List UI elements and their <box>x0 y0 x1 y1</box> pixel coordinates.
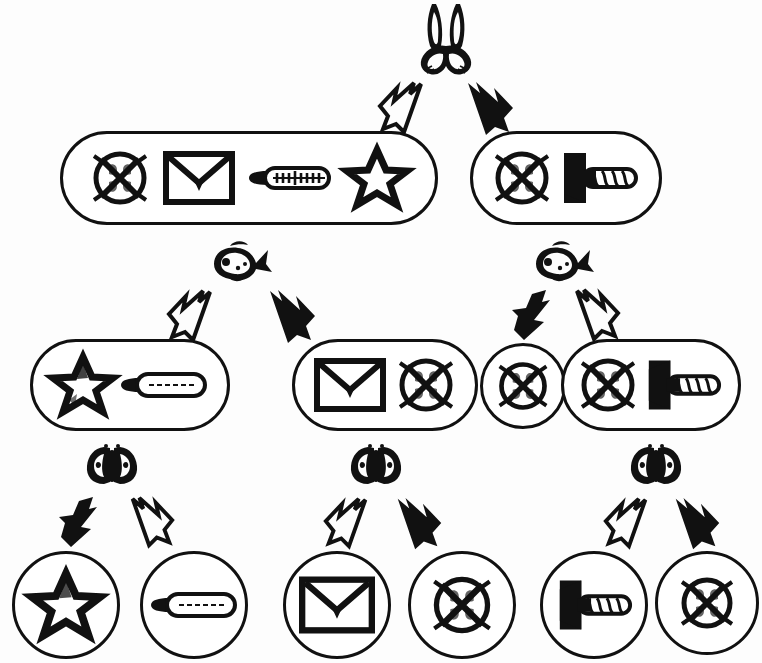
circle-with-x-icon <box>491 147 553 209</box>
star-icon <box>30 570 102 640</box>
node-l2-left[interactable] <box>60 131 438 225</box>
leaf-6[interactable] <box>655 551 759 655</box>
fish-icon <box>530 240 596 288</box>
black-filled-arrow-icon <box>512 288 558 344</box>
black-filled-arrow-icon <box>668 495 726 553</box>
left-arrow-tool-icon <box>556 150 642 206</box>
envelope-icon <box>314 358 386 412</box>
circle-with-x-icon <box>395 354 457 416</box>
butterfly-icon <box>348 444 404 486</box>
envelope-icon <box>163 151 235 205</box>
circle-with-x-icon <box>429 572 495 638</box>
black-filled-arrow-icon <box>460 80 520 138</box>
node-l3-b[interactable] <box>292 339 478 431</box>
black-filled-arrow-icon <box>58 495 106 551</box>
circle-with-x-icon <box>676 572 738 634</box>
circle-with-x-icon <box>577 354 639 416</box>
white-outline-arrow-icon <box>600 495 656 553</box>
star-icon <box>51 354 115 416</box>
butterfly-icon <box>628 444 684 486</box>
white-outline-arrow-icon <box>374 80 432 136</box>
white-outline-arrow-icon <box>320 495 376 553</box>
black-filled-arrow-icon <box>262 288 322 346</box>
leaf-3[interactable] <box>283 551 391 659</box>
fish-icon <box>208 240 274 288</box>
node-l2-right[interactable] <box>470 131 662 225</box>
white-outline-arrow-icon <box>122 495 178 553</box>
diagram-canvas <box>0 0 762 663</box>
node-l3-d[interactable] <box>561 339 741 431</box>
leaf-4[interactable] <box>408 551 516 659</box>
thermometer-icon <box>247 161 333 195</box>
rabbit-head-icon <box>410 2 482 80</box>
node-l3-c[interactable] <box>480 343 566 429</box>
envelope-icon <box>299 576 375 634</box>
thermometer-icon <box>119 368 209 402</box>
white-outline-arrow-icon <box>566 288 624 346</box>
circle-with-x-icon <box>89 147 151 209</box>
left-arrow-tool-icon <box>641 357 725 413</box>
leaf-1[interactable] <box>12 551 120 659</box>
node-l3-a[interactable] <box>30 339 230 431</box>
thermometer-icon <box>149 588 239 622</box>
black-filled-arrow-icon <box>390 495 448 553</box>
star-icon <box>345 147 409 209</box>
circle-with-x-icon <box>494 357 552 415</box>
leaf-2[interactable] <box>140 551 248 659</box>
butterfly-icon <box>84 444 140 486</box>
white-outline-arrow-icon <box>163 288 221 344</box>
left-arrow-tool-icon <box>552 577 636 633</box>
leaf-5[interactable] <box>540 551 648 659</box>
